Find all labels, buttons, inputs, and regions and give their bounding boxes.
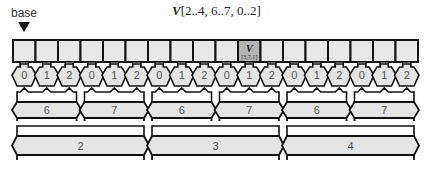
memory-cell [351,40,374,62]
i-index-band-bracket [287,126,414,136]
k-index-label: 0 [21,69,27,81]
k-index-label: 0 [156,69,162,81]
k-index-label: 1 [179,69,185,81]
j-index-band-bracket [287,88,347,102]
i-index-band-bracket [17,126,144,136]
k-index-label: 2 [269,69,275,81]
memory-cell [171,40,194,62]
j-index-band-label: 6 [44,104,50,116]
k-index-label: 0 [359,69,365,81]
j-index-band-label: 6 [179,104,185,116]
highlighted-cell-index: [3,7,1] [241,54,257,61]
memory-cell [328,40,351,62]
memory-cell [103,40,126,62]
k-index-label: 2 [66,69,72,81]
k-index-label: 1 [314,69,320,81]
i-index-band-label: 4 [347,140,353,152]
memory-cell [36,40,59,62]
j-index-band-label: 6 [314,104,320,116]
j-index-band-bracket [85,88,145,102]
memory-cell [13,40,36,62]
memory-layout-diagram: V[3,7,1] 012012012012012012 676767 234 [0,0,433,174]
memory-cell [193,40,216,62]
base-pointer-arrow-icon [18,22,30,32]
j-index-band-bracket [355,88,415,102]
k-index-label: 2 [201,69,207,81]
j-index-band-label: 7 [381,104,387,116]
memory-cell [283,40,306,62]
memory-cell [373,40,396,62]
memory-cell [306,40,329,62]
memory-cells: V[3,7,1] [13,40,418,62]
i-index-band-bracket [152,126,279,136]
j-index-band-bracket [220,88,280,102]
i-index-band-label: 2 [77,140,83,152]
k-index-label: 1 [111,69,117,81]
j-index-band-label: 7 [246,104,252,116]
k-index-label: 0 [89,69,95,81]
memory-cell [396,40,419,62]
memory-cell [216,40,239,62]
i-index-band-label: 3 [212,140,218,152]
k-index-label: 0 [224,69,230,81]
memory-cell [261,40,284,62]
k-index-label: 2 [134,69,140,81]
i-index-row: 234 [12,126,419,160]
k-index-label: 1 [381,69,387,81]
k-index-label: 2 [404,69,410,81]
j-index-band-bracket [152,88,212,102]
j-index-row: 676767 [12,88,419,121]
k-index-label: 1 [246,69,252,81]
memory-cell [58,40,81,62]
k-index-label: 1 [44,69,50,81]
k-index-label: 0 [291,69,297,81]
memory-cell [126,40,149,62]
memory-cell [148,40,171,62]
memory-cell [81,40,104,62]
k-index-label: 2 [336,69,342,81]
j-index-band-label: 7 [111,104,117,116]
k-index-row: 012012012012012012 [12,62,419,86]
j-index-band-bracket [17,88,77,102]
